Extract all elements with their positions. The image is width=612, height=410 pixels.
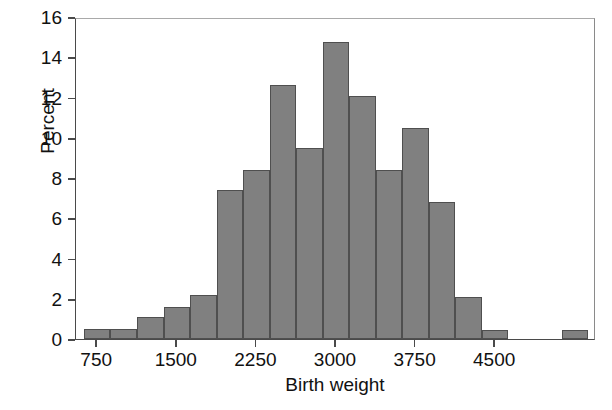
y-tick-mark — [68, 138, 75, 140]
histogram-bar — [349, 96, 376, 340]
x-tick-label: 3000 — [295, 349, 375, 371]
y-tick-label: 6 — [18, 209, 62, 228]
histogram-bar — [270, 85, 297, 339]
histogram-bar — [164, 307, 191, 339]
histogram-bar — [190, 295, 217, 339]
x-tick-label: 4500 — [454, 349, 534, 371]
histogram-bar — [110, 329, 137, 339]
y-tick-mark — [68, 57, 75, 59]
y-axis-title: Percent — [37, 11, 59, 231]
x-tick-mark — [334, 340, 336, 347]
histogram-bar — [562, 330, 589, 339]
y-tick-mark — [68, 299, 75, 301]
histogram-bar — [429, 202, 456, 339]
histogram-bar — [217, 190, 244, 339]
histogram-bar — [376, 170, 403, 339]
y-tick-label: 12 — [18, 89, 62, 108]
x-tick-mark — [95, 340, 97, 347]
x-tick-label: 2250 — [215, 349, 295, 371]
histogram-figure: Percent 0246810121416 750150022503000375… — [0, 0, 612, 410]
y-tick-mark — [68, 339, 75, 341]
y-tick-label: 8 — [18, 169, 62, 188]
histogram-bar — [296, 148, 323, 339]
x-tick-label: 3750 — [375, 349, 455, 371]
plot-area — [76, 19, 594, 339]
y-tick-label: 16 — [18, 8, 62, 27]
histogram-bar — [243, 170, 270, 339]
y-tick-mark — [68, 218, 75, 220]
histogram-bar — [137, 317, 164, 339]
x-tick-mark — [493, 340, 495, 347]
x-tick-label: 1500 — [136, 349, 216, 371]
histogram-bar — [455, 297, 482, 339]
y-tick-mark — [68, 17, 75, 19]
plot-frame — [75, 18, 595, 340]
y-tick-label: 10 — [18, 129, 62, 148]
y-tick-mark — [68, 98, 75, 100]
y-tick-mark — [68, 259, 75, 261]
histogram-bar — [323, 42, 350, 339]
x-tick-mark — [175, 340, 177, 347]
y-tick-label: 14 — [18, 48, 62, 67]
histogram-bar — [482, 330, 509, 339]
x-axis-title: Birth weight — [75, 374, 595, 396]
y-tick-label: 4 — [18, 250, 62, 269]
y-tick-mark — [68, 178, 75, 180]
y-tick-label: 0 — [18, 330, 62, 349]
x-tick-mark — [414, 340, 416, 347]
x-tick-label: 750 — [56, 349, 136, 371]
y-tick-label: 2 — [18, 290, 62, 309]
histogram-bar — [402, 128, 429, 339]
x-tick-mark — [255, 340, 257, 347]
histogram-bar — [84, 329, 111, 339]
